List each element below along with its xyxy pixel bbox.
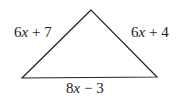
right-side-label: 6x + 4 [131,25,169,40]
bottom-coef: 8 [66,80,74,96]
bottom-rest: − 3 [80,80,103,96]
left-rest: + 7 [28,24,51,40]
right-rest: + 4 [145,24,168,40]
triangle-outline [22,10,157,78]
right-coef: 6 [131,24,139,40]
left-coef: 6 [14,24,22,40]
bottom-side-label: 8x − 3 [66,81,104,96]
left-side-label: 6x + 7 [14,25,52,40]
